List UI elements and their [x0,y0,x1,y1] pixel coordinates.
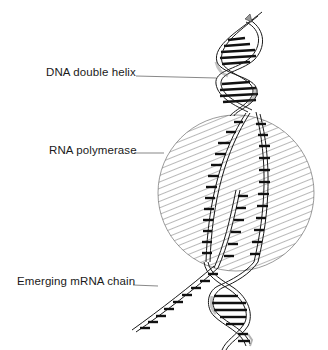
dna-double-helix-lower [204,262,258,350]
leader-line-mrna [133,285,158,286]
dna-double-helix-upper [216,12,263,116]
label-rna-polymerase: RNA polymerase [49,145,137,157]
label-emerging-mrna-chain: Emerging mRNA chain [17,276,135,288]
transcription-illustration [0,0,328,350]
emerging-mrna-chain [132,266,218,332]
leader-line-dna [136,76,216,78]
diagram-canvas: DNA double helix RNA polymerase Emerging… [0,0,328,350]
label-dna-double-helix: DNA double helix [46,67,136,79]
